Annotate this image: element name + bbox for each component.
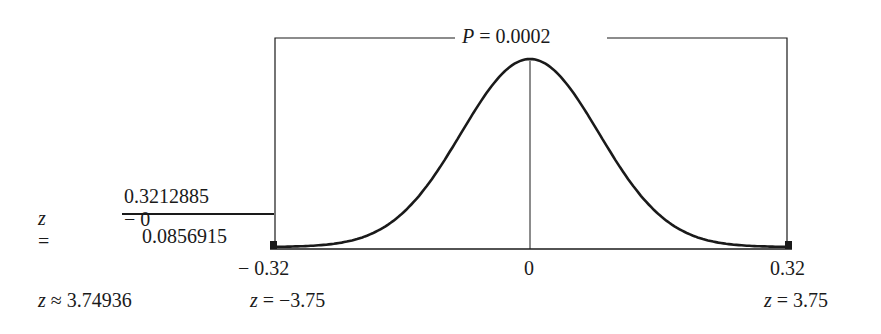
axis-label-center: 0 [524,257,534,279]
p-value: = 0.0002 [479,25,550,47]
z-symbol: z [764,289,772,311]
z-symbol: z [38,289,46,311]
p-value-label: P = 0.0002 [462,25,551,47]
z-label-right: z = 3.75 [764,289,828,311]
z-value-right: = 3.75 [777,289,828,311]
formula-result: z ≈ 3.74936 [38,289,132,311]
z-value-left: = −3.75 [263,289,326,311]
left-tail-marker [270,241,277,249]
normal-curve-diagram [0,0,881,334]
p-symbol: P [462,25,474,47]
z-result-value: ≈ 3.74936 [46,289,132,311]
fraction-bar [122,213,274,215]
formula-lhs: z = [38,207,49,253]
equals-sign: = [38,230,49,252]
z-label-left: z = −3.75 [250,289,325,311]
right-tail-marker [785,241,792,249]
axis-label-left: − 0.32 [238,257,289,279]
p-value-bracket [275,38,787,249]
formula-denominator: 0.0856915 [142,225,227,248]
axis-label-right: 0.32 [770,257,805,279]
z-symbol: z [38,207,46,229]
z-symbol: z [250,289,258,311]
